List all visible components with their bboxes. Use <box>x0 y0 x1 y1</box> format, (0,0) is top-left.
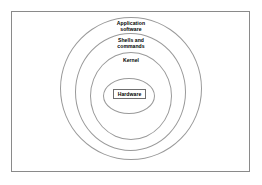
onion-diagram: Application software Shells and commands… <box>0 0 262 185</box>
hardware-box: Hardware <box>113 89 146 99</box>
label-hardware: Hardware <box>118 91 142 97</box>
figure-root: Application software Shells and commands… <box>0 0 262 185</box>
